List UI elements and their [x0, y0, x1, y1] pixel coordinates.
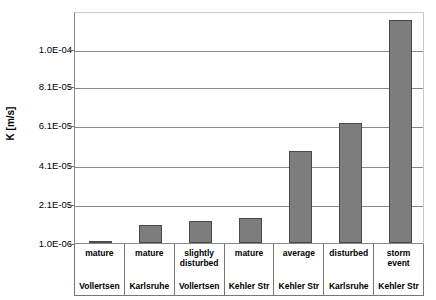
category-cell: disturbedKarlsruhe [324, 244, 374, 295]
bar [139, 225, 162, 243]
bar [89, 241, 112, 243]
category-location-label: Vollertsen [175, 281, 224, 291]
bar-series [75, 13, 423, 243]
bar-chart-figure: K [m/s] 1.0E-048.1E-056.1E-054.1E-052.1E… [0, 0, 436, 300]
category-location-label: Kehler Str [225, 281, 274, 291]
bar [189, 221, 212, 243]
category-cell: matureKarlsruhe [125, 244, 175, 295]
bar [389, 20, 412, 243]
category-cell: matureVollertsen [75, 244, 125, 295]
category-location-label: Karlsruhe [324, 281, 373, 291]
y-axis-tick-label: 4.1E-05 [10, 161, 72, 171]
category-condition-label: mature [234, 248, 264, 258]
category-condition-label: mature [134, 248, 164, 258]
bar [339, 123, 362, 243]
y-axis-tick-label: 1.0E-06 [10, 239, 72, 249]
category-location-label: Karlsruhe [125, 281, 174, 291]
bar [289, 151, 312, 243]
y-axis-tick-label: 8.1E-05 [10, 82, 72, 92]
bar [239, 218, 262, 243]
category-condition-label: average [282, 248, 316, 258]
category-cell: slightly disturbedVollertsen [175, 244, 225, 295]
category-cell: storm eventKehler Str [374, 244, 423, 295]
category-condition-label: disturbed [328, 248, 369, 258]
category-axis-table: matureVollertsenmatureKarlsruheslightly … [74, 244, 424, 296]
category-condition-label: storm event [374, 248, 423, 268]
y-axis-tick-label: 1.0E-04 [10, 45, 72, 55]
category-condition-label: slightly disturbed [175, 248, 224, 268]
category-cell: matureKehler Str [225, 244, 275, 295]
y-axis-tick-label: 6.1E-05 [10, 121, 72, 131]
category-location-label: Kehler Str [374, 281, 423, 291]
plot-area [74, 12, 424, 244]
y-axis-tick-label: 2.1E-05 [10, 200, 72, 210]
category-location-label: Kehler Str [274, 281, 323, 291]
category-location-label: Vollertsen [75, 281, 124, 291]
y-axis-tick-labels: 1.0E-048.1E-056.1E-054.1E-052.1E-051.0E-… [10, 0, 72, 300]
category-cell: averageKehler Str [274, 244, 324, 295]
category-condition-label: mature [84, 248, 114, 258]
